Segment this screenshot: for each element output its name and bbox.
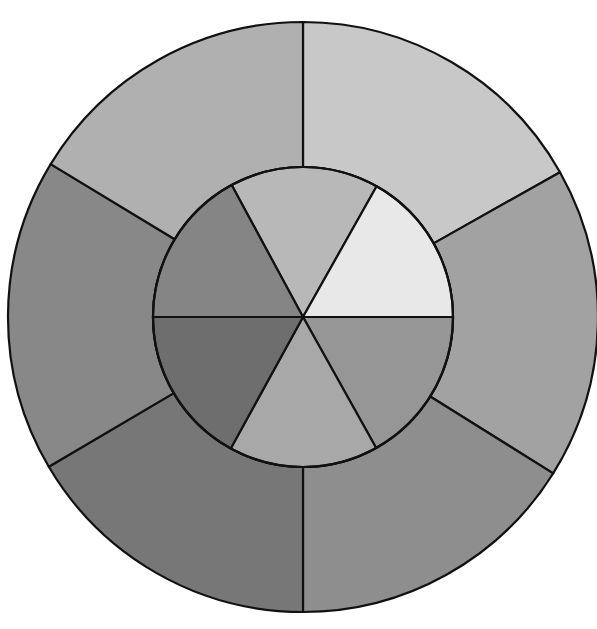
sunburst-chart-canvas: Outer AOuter BOuter COuter DOuter EOuter…: [0, 0, 597, 629]
sunburst-svg: Outer AOuter BOuter COuter DOuter EOuter…: [0, 0, 597, 629]
inner-ring-group: Inner AInner BInner CInner DInner EInner…: [153, 167, 453, 467]
